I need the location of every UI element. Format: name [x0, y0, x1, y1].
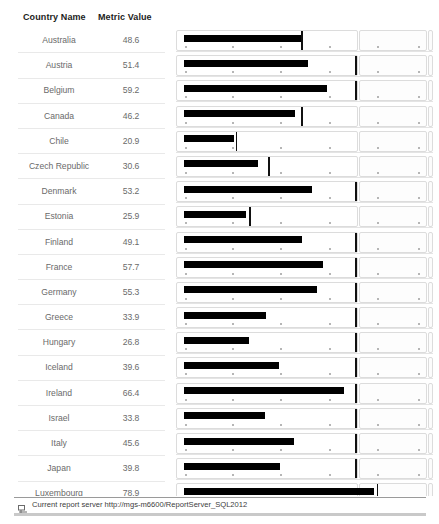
- metric-value-cell: 39.8: [100, 463, 162, 473]
- axis-tick: [377, 46, 379, 48]
- measure-bar: [184, 60, 308, 67]
- bullet-graph[interactable]: [176, 307, 433, 328]
- target-marker: [249, 207, 251, 226]
- axis-tick: [329, 172, 331, 174]
- axis-tick: [418, 222, 420, 224]
- table-row[interactable]: Australia48.6: [0, 28, 439, 53]
- bullet-graph[interactable]: [176, 433, 433, 454]
- table-row[interactable]: Canada46.2: [0, 104, 439, 129]
- bullet-graph[interactable]: [176, 408, 433, 429]
- bullet-graph[interactable]: [176, 206, 433, 227]
- table-row[interactable]: Greece33.9: [0, 305, 439, 330]
- table-row[interactable]: Italy45.6: [0, 431, 439, 456]
- table-row[interactable]: Belgium59.2: [0, 78, 439, 103]
- bullet-graph[interactable]: [176, 383, 433, 404]
- axis-tick: [377, 222, 379, 224]
- table-row[interactable]: Czech Republic30.6: [0, 154, 439, 179]
- bullet-graph[interactable]: [176, 332, 433, 353]
- axis-tick: [280, 71, 282, 73]
- axis-tick: [232, 172, 234, 174]
- axis-tick: [280, 474, 282, 476]
- target-marker: [355, 333, 357, 352]
- axis-tick: [329, 197, 331, 199]
- table-row[interactable]: Japan39.8: [0, 456, 439, 481]
- axis-tick: [329, 298, 331, 300]
- measure-bar: [184, 488, 374, 495]
- table-row[interactable]: Austria51.4: [0, 53, 439, 78]
- bullet-graph[interactable]: [176, 458, 433, 479]
- axis-tick: [418, 197, 420, 199]
- axis-tick: [280, 298, 282, 300]
- measure-bar: [184, 312, 266, 319]
- status-text: Current report server http://mgs-m6600/R…: [32, 500, 247, 509]
- axis-tick: [185, 248, 187, 250]
- axis-tick: [232, 122, 234, 124]
- bullet-baseline: [176, 253, 433, 254]
- bullet-baseline: [176, 454, 433, 455]
- bullet-baseline: [176, 227, 433, 228]
- axis-tick: [418, 373, 420, 375]
- bullet-graph[interactable]: [176, 282, 433, 303]
- axis-tick: [280, 373, 282, 375]
- axis-tick: [280, 273, 282, 275]
- table-row[interactable]: Finland49.1: [0, 230, 439, 255]
- target-marker: [355, 233, 357, 252]
- axis-tick: [232, 399, 234, 401]
- metric-value-cell: 39.6: [100, 362, 162, 372]
- report-rows: Australia48.6Austria51.4Belgium59.2Canad…: [0, 28, 439, 524]
- axis-tick: [418, 399, 420, 401]
- axis-tick: [329, 373, 331, 375]
- measure-bar: [184, 135, 234, 142]
- axis-tick: [185, 222, 187, 224]
- bullet-range-band-3: [428, 257, 433, 278]
- axis-tick: [377, 71, 379, 73]
- target-marker: [355, 434, 357, 453]
- table-row[interactable]: Denmark53.2: [0, 179, 439, 204]
- table-row[interactable]: Chile20.9: [0, 129, 439, 154]
- metric-value-cell: 26.8: [100, 337, 162, 347]
- bullet-graph[interactable]: [176, 55, 433, 76]
- axis-tick: [280, 399, 282, 401]
- axis-tick: [329, 222, 331, 224]
- table-row[interactable]: Estonia25.9: [0, 204, 439, 229]
- table-row[interactable]: Ireland66.4: [0, 381, 439, 406]
- axis-tick: [185, 273, 187, 275]
- axis-tick: [377, 449, 379, 451]
- table-row[interactable]: Israel33.8: [0, 406, 439, 431]
- bullet-graph[interactable]: [176, 181, 433, 202]
- bullet-graph[interactable]: [176, 357, 433, 378]
- axis-tick: [377, 474, 379, 476]
- bullet-graph[interactable]: [176, 131, 433, 152]
- target-marker: [301, 31, 303, 50]
- table-row[interactable]: Hungary26.8: [0, 330, 439, 355]
- bullet-graph[interactable]: [176, 156, 433, 177]
- bullet-graph[interactable]: [176, 30, 433, 51]
- bullet-range-band-3: [428, 232, 433, 253]
- table-row[interactable]: France57.7: [0, 255, 439, 280]
- axis-tick: [329, 399, 331, 401]
- measure-bar: [184, 236, 302, 243]
- axis-tick: [232, 273, 234, 275]
- axis-tick: [185, 122, 187, 124]
- axis-tick: [418, 96, 420, 98]
- axis-tick: [185, 298, 187, 300]
- measure-bar: [184, 211, 246, 218]
- axis-tick: [185, 197, 187, 199]
- bullet-range-band-3: [428, 458, 433, 479]
- axis-tick: [418, 449, 420, 451]
- bullet-graph[interactable]: [176, 80, 433, 101]
- axis-tick: [329, 449, 331, 451]
- table-row[interactable]: Germany55.3: [0, 280, 439, 305]
- table-row[interactable]: Iceland39.6: [0, 355, 439, 380]
- measure-bar: [184, 160, 258, 167]
- axis-tick: [185, 348, 187, 350]
- bullet-graph[interactable]: [176, 257, 433, 278]
- bullet-graph[interactable]: [176, 106, 433, 127]
- axis-tick: [418, 172, 420, 174]
- target-marker: [268, 157, 270, 176]
- bullet-baseline: [176, 152, 433, 153]
- axis-tick: [377, 147, 379, 149]
- bullet-range-band-3: [428, 131, 433, 152]
- axis-tick: [280, 323, 282, 325]
- bullet-graph[interactable]: [176, 232, 433, 253]
